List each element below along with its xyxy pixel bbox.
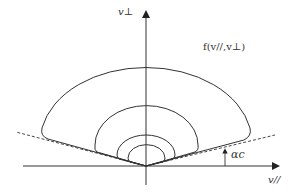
function-label: f(v//,v⊥) [203,41,245,52]
vertical-axis-label: v⊥ [118,6,133,17]
horizontal-axis-label: v// [268,174,280,185]
angle-label: αc [231,148,245,161]
diagram-canvas [0,0,297,195]
